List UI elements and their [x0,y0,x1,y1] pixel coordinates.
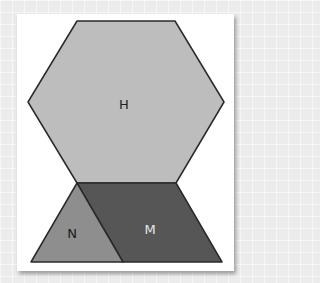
trapezoid-label: M [144,222,155,237]
hexagon-label: H [119,97,129,112]
triangle-label: N [67,226,77,241]
pattern-blocks-figure: H N M [0,0,247,283]
